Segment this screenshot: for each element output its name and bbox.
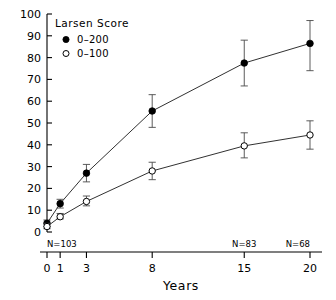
y-tick-label-90: 90 (27, 30, 41, 43)
x-axis-title: Years (162, 278, 199, 293)
x-axis-ticks (47, 252, 310, 258)
legend-label-0-100: 0–100 (77, 48, 109, 59)
x-tick-label-8: 8 (149, 262, 156, 275)
data-point-0-100-1 (57, 214, 63, 220)
x-axis-tick-labels: 01381520 (44, 262, 318, 275)
y-tick-label-10: 10 (27, 204, 41, 217)
x-tick-label-15: 15 (237, 262, 251, 275)
sample-size-annotations: N=103N=83N=68 (47, 239, 310, 249)
chart-canvas: 0102030405060708090100 01381520 N=103N=8… (0, 0, 336, 300)
data-point-0-100-3 (83, 198, 89, 204)
data-point-0-200-3 (83, 170, 90, 177)
y-tick-label-0: 0 (34, 226, 41, 239)
y-axis-ticks (47, 14, 52, 232)
y-tick-label-70: 70 (27, 73, 41, 86)
legend-marker-open-circle-icon (63, 51, 69, 57)
y-axis-tick-labels: 0102030405060708090100 (20, 8, 41, 239)
data-point-0-100-0 (44, 223, 50, 229)
y-tick-label-40: 40 (27, 139, 41, 152)
y-tick-label-60: 60 (27, 95, 41, 108)
legend-title: Larsen Score (55, 17, 129, 29)
x-tick-label-20: 20 (303, 262, 317, 275)
legend-label-0-200: 0–200 (77, 34, 109, 45)
y-tick-label-20: 20 (27, 182, 41, 195)
data-point-0-100-20 (307, 132, 313, 138)
data-point-0-200-8 (149, 108, 156, 115)
chart-legend: Larsen Score 0–200 0–100 (55, 17, 129, 59)
data-point-0-100-8 (149, 168, 155, 174)
sample-size-label-15: N=83 (232, 239, 256, 249)
x-tick-label-0: 0 (44, 262, 51, 275)
y-tick-label-80: 80 (27, 52, 41, 65)
y-tick-label-50: 50 (27, 117, 41, 130)
x-tick-label-1: 1 (57, 262, 64, 275)
data-point-0-200-20 (307, 40, 314, 47)
sample-size-label-0: N=103 (47, 239, 77, 249)
data-point-0-100-15 (241, 143, 247, 149)
y-tick-label-100: 100 (20, 8, 41, 21)
data-point-0-200-1 (57, 200, 64, 207)
y-tick-label-30: 30 (27, 161, 41, 174)
sample-size-label-20: N=68 (286, 239, 310, 249)
legend-marker-filled-circle-icon (63, 36, 69, 42)
chart-figure: 0102030405060708090100 01381520 N=103N=8… (0, 0, 336, 300)
x-tick-label-3: 3 (83, 262, 90, 275)
data-point-0-200-15 (241, 60, 248, 67)
